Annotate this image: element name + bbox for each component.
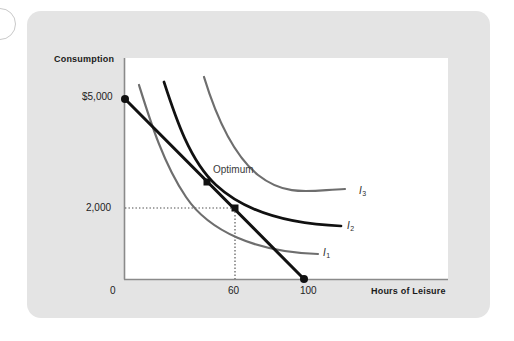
- x-tick-label-100: 100: [300, 285, 317, 296]
- curve-label-i2: I2: [347, 220, 354, 232]
- x-tick-label-0: 0: [110, 285, 116, 296]
- y-axis-title: Consumption: [54, 54, 114, 64]
- curve-label-i3: I3: [359, 185, 366, 197]
- y-tick-label-2000: 2,000: [86, 202, 111, 213]
- curve-label-i1-subscript: 1: [326, 252, 330, 259]
- optimum-annotation-label: Optimum: [213, 164, 254, 175]
- optimum-point-marker: [204, 179, 211, 186]
- x-axis-title: Hours of Leisure: [371, 286, 446, 296]
- curve-label-i1: I1: [323, 247, 330, 259]
- budget-constraint-line: [125, 99, 304, 279]
- curve-label-i3-subscript: 3: [362, 190, 366, 197]
- budget-endpoint-max-leisure-marker: [300, 275, 308, 283]
- y-tick-label-5000: $5,000: [82, 91, 113, 102]
- chosen-bundle-point-marker: [232, 205, 239, 212]
- budget-endpoint-intercept-marker: [121, 95, 129, 103]
- curve-label-i2-subscript: 2: [350, 225, 354, 232]
- x-tick-label-60: 60: [228, 285, 239, 296]
